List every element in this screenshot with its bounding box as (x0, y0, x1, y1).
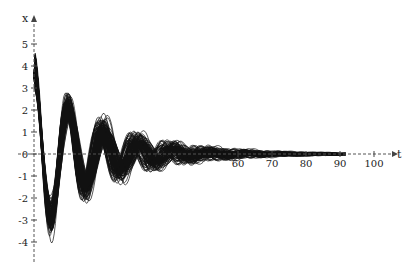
trajectory-line (34, 56, 346, 223)
damped-oscillation-chart: 60708090100 543210-1-2-3-4 t x (0, 0, 419, 275)
x-axis-label: t (397, 148, 402, 161)
x-tick-label: 90 (334, 158, 347, 169)
trajectory-line (34, 63, 346, 226)
x-tick-label: 70 (266, 158, 279, 169)
trajectory-line (34, 62, 346, 224)
trajectory-line (34, 77, 346, 209)
y-tick-label: -2 (18, 193, 28, 204)
x-tick-label: 80 (300, 158, 313, 169)
trajectory-line (34, 59, 346, 221)
trajectory-line (34, 58, 346, 230)
trajectory-line (34, 66, 346, 224)
y-axis-arrow-icon (31, 15, 37, 22)
trajectory-line (34, 58, 346, 228)
trajectory-line (34, 55, 346, 228)
trajectory-line (34, 58, 346, 222)
x-tick-label: 60 (232, 158, 245, 169)
trajectory-line (34, 60, 346, 229)
y-tick-label: -4 (18, 237, 28, 248)
trajectory-line (34, 59, 346, 229)
x-tick-label: 100 (364, 158, 383, 169)
trajectory-line (34, 66, 346, 224)
trajectory-line (34, 61, 346, 220)
y-tick-label: -1 (18, 171, 28, 182)
y-tick-label: 3 (22, 83, 28, 94)
y-tick-label: 0 (22, 149, 28, 160)
y-axis-label: x (22, 12, 29, 25)
trajectory-line (34, 60, 346, 224)
trajectory-line (34, 56, 346, 229)
y-tick-label: 1 (22, 127, 28, 138)
trajectory-line (34, 77, 346, 209)
y-tick-label: 2 (22, 105, 28, 116)
y-tick-label: 4 (22, 61, 28, 72)
trajectory-curves (34, 53, 346, 243)
trajectory-line (34, 55, 346, 225)
trajectory-line (34, 69, 346, 220)
y-tick-label: -3 (18, 215, 28, 226)
trajectory-line (34, 57, 346, 229)
y-tick-label: 5 (22, 39, 28, 50)
trajectory-line (34, 56, 346, 233)
trajectory-line (34, 55, 346, 227)
